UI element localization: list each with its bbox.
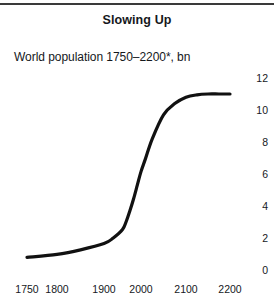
x-tick-label: 2000 bbox=[129, 284, 152, 295]
plot-area bbox=[0, 0, 274, 303]
x-tick-label: 1800 bbox=[45, 284, 68, 295]
x-tick-label: 1900 bbox=[92, 284, 115, 295]
y-tick-label: 12 bbox=[240, 73, 268, 84]
y-tick-label: 2 bbox=[240, 233, 268, 244]
x-tick-label: 2100 bbox=[174, 284, 197, 295]
x-tick-label: 1750 bbox=[15, 284, 38, 295]
chart-figure: Slowing Up World population 1750–2200*, … bbox=[0, 0, 274, 303]
y-tick-label: 0 bbox=[240, 265, 268, 276]
series-line-world-population bbox=[27, 94, 230, 257]
population-line-chart bbox=[0, 0, 274, 303]
y-axis-tick-labels: 121086420 bbox=[240, 70, 268, 278]
x-tick-label: 2200 bbox=[218, 284, 241, 295]
x-axis-tick-labels: 175018001900200021002200 bbox=[0, 284, 274, 300]
y-tick-label: 4 bbox=[240, 201, 268, 212]
y-tick-label: 6 bbox=[240, 169, 268, 180]
y-tick-label: 8 bbox=[240, 137, 268, 148]
y-tick-label: 10 bbox=[240, 105, 268, 116]
